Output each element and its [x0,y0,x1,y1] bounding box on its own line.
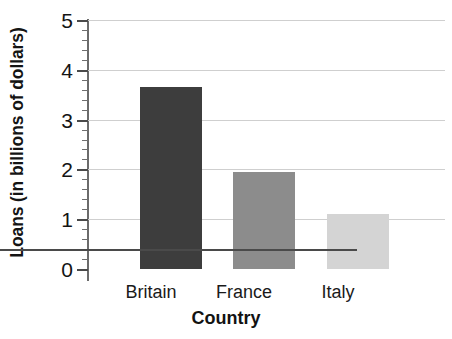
bar-chart: Loans (in billions of dollars) 5 4 3 2 1… [0,0,452,339]
y-tick-label-5: 5 [47,10,73,31]
y-tick-label-4: 4 [47,59,73,80]
bar-france [233,172,295,269]
x-tick-label-britain: Britain [110,283,192,301]
y-tick-label-3: 3 [47,109,73,130]
y-major-tick-3 [77,120,88,122]
plot-area [88,20,445,269]
y-major-tick-2 [77,169,88,171]
x-tick-label-italy: Italy [297,283,379,301]
y-major-tick-5 [77,20,88,22]
x-axis-line [0,249,357,251]
gridline-5 [88,20,445,21]
y-axis-title: Loans (in billions of dollars) [0,0,34,285]
bar-italy [327,214,389,269]
y-major-tick-0 [77,269,88,271]
y-major-tick-1 [77,219,88,221]
x-axis-title: Country [0,309,452,327]
bar-britain [140,87,202,269]
gridline-4 [88,70,445,71]
x-tick-label-france: France [203,283,285,301]
y-tick-label-0: 0 [47,259,73,280]
y-tick-label-1: 1 [47,209,73,230]
y-major-tick-4 [77,70,88,72]
y-axis-tick-labels: 5 4 3 2 1 0 [43,0,73,339]
y-axis-title-text: Loans (in billions of dollars) [7,27,28,257]
y-tick-label-2: 2 [47,159,73,180]
